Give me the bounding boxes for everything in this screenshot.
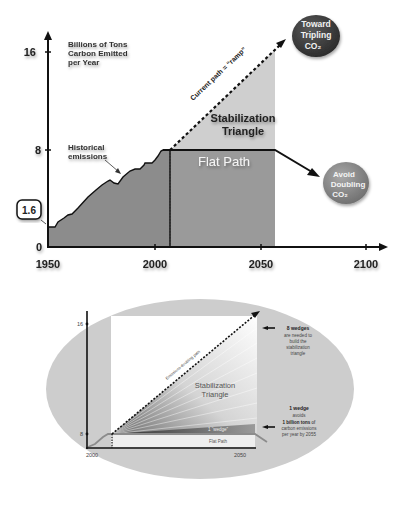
svg-text:avoids: avoids	[292, 413, 306, 418]
svg-text:emissions: emissions	[68, 152, 108, 161]
top-chart: 16 8 0 1950 2000 2050 2100 Billions of T…	[17, 15, 388, 270]
svg-text:Historical: Historical	[68, 143, 104, 152]
y-label-8: 8	[80, 431, 83, 437]
svg-text:CO₂: CO₂	[305, 41, 322, 51]
one-wedge-label: 1 “wedge”	[208, 427, 229, 432]
avoid-doubling-bubble: Avoid Doubling CO₂	[323, 162, 369, 204]
y-label-16: 16	[77, 321, 83, 327]
start-value-badge: 1.6	[17, 200, 46, 224]
x-label-2050: 2050	[234, 452, 246, 458]
y-label-8: 8	[35, 144, 41, 156]
x-label-2050: 2050	[249, 258, 273, 270]
flat-path-band	[112, 435, 255, 447]
bottom-chart: 16 8 2000 2050 Emissions-doubling path S…	[46, 299, 354, 479]
svg-text:Toward: Toward	[301, 19, 331, 29]
x-label-2000: 2000	[86, 452, 98, 458]
y-axis-title: Billions of Tons Carbon Emitted per Year	[68, 40, 128, 67]
svg-text:stabilization: stabilization	[286, 345, 310, 350]
svg-text:Triangle: Triangle	[222, 125, 264, 137]
svg-text:Carbon Emitted: Carbon Emitted	[68, 49, 128, 58]
x-label-2000: 2000	[143, 258, 167, 270]
stabilization-wedges-figure: 16 8 0 1950 2000 2050 2100 Billions of T…	[0, 0, 402, 508]
y-axis-arrow	[44, 31, 52, 40]
x-label-1950: 1950	[36, 258, 60, 270]
y-tick-8	[86, 433, 89, 436]
y-label-0: 0	[36, 241, 42, 253]
x-axis-arrow	[379, 243, 388, 251]
historical-emissions-label: Historical emissions	[68, 143, 108, 161]
svg-text:Stabilization: Stabilization	[195, 381, 235, 390]
svg-text:per Year: per Year	[68, 58, 99, 67]
svg-text:1.6: 1.6	[22, 205, 36, 216]
y-label-16: 16	[24, 46, 36, 58]
svg-text:build the: build the	[289, 339, 307, 344]
svg-text:Tripling: Tripling	[301, 30, 332, 40]
svg-text:Billions of Tons: Billions of Tons	[68, 40, 128, 49]
svg-text:are needed to: are needed to	[284, 333, 312, 338]
flat-path-label: Flat Path	[209, 439, 228, 444]
svg-text:Stabilization: Stabilization	[211, 112, 276, 124]
flat-path-label: Flat Path	[198, 154, 250, 169]
svg-text:Doubling: Doubling	[331, 180, 366, 189]
svg-text:per year by 2055: per year by 2055	[282, 432, 316, 437]
x-label-2100: 2100	[354, 258, 378, 270]
svg-text:triangle: triangle	[291, 351, 306, 356]
svg-text:Avoid: Avoid	[333, 170, 355, 179]
toward-tripling-bubble: Toward Tripling CO₂	[292, 15, 340, 57]
svg-text:carbon emissions: carbon emissions	[281, 426, 317, 431]
svg-text:Triangle: Triangle	[202, 390, 229, 399]
svg-text:8 wedges: 8 wedges	[287, 325, 310, 331]
svg-text:1 billion tons of: 1 billion tons of	[283, 420, 317, 425]
svg-text:1 wedge: 1 wedge	[289, 405, 309, 411]
historical-emissions-area	[48, 150, 170, 247]
svg-text:CO₂: CO₂	[332, 190, 348, 199]
y-tick-16	[86, 323, 89, 326]
